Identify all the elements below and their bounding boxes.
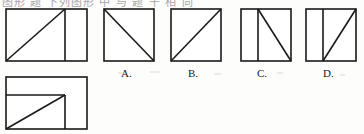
cropped-header-text: 图形 题 下列图形 中 与 题 干 相 同 bbox=[0, 0, 364, 7]
option-d-label[interactable]: D. bbox=[323, 68, 334, 79]
option-c-label[interactable]: C. bbox=[257, 68, 267, 79]
option-a-figure[interactable] bbox=[103, 8, 155, 62]
option-d-figure[interactable] bbox=[305, 8, 357, 62]
option-b-label[interactable]: B. bbox=[188, 68, 198, 79]
stem-figure bbox=[5, 8, 88, 62]
option-c-outline bbox=[241, 9, 291, 61]
option-b-figure[interactable] bbox=[170, 8, 222, 62]
option-a-label[interactable]: A. bbox=[121, 68, 132, 79]
header-text-fragment: 图形 题 下列图形 中 与 题 干 相 同 bbox=[2, 0, 194, 7]
scan-speck bbox=[340, 74, 345, 76]
stem-figure-2 bbox=[5, 76, 88, 130]
worksheet-canvas: 图形 题 下列图形 中 与 题 干 相 同 A. B. bbox=[0, 0, 364, 134]
option-c-figure[interactable] bbox=[240, 8, 292, 62]
stem-figure-outline bbox=[6, 9, 87, 61]
option-d-outline bbox=[306, 9, 356, 61]
scan-speck bbox=[150, 71, 160, 73]
scan-speck bbox=[214, 73, 221, 75]
scan-speck bbox=[277, 72, 283, 74]
